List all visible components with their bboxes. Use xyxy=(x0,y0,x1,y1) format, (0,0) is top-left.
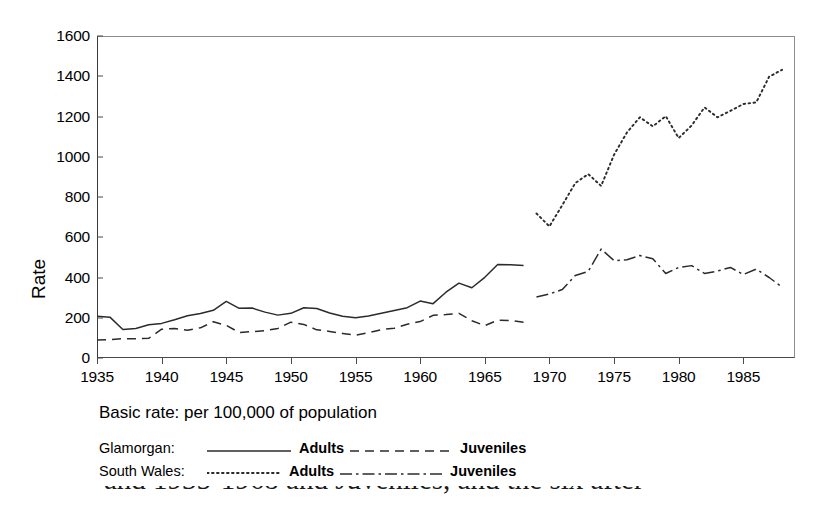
y-axis-tick-mark xyxy=(97,277,103,278)
legend-row: Glamorgan:AdultsJuveniles xyxy=(99,436,659,459)
cropped-caption-text: and 1935-1968 and Juveniles, and the six… xyxy=(104,486,644,496)
y-axis-tick-mark xyxy=(97,36,103,37)
x-axis-tick-mark xyxy=(679,358,680,364)
x-axis-tick-mark xyxy=(485,358,486,364)
legend-swatch-juveniles xyxy=(340,465,444,477)
y-axis-tick-label: 1600 xyxy=(56,27,90,45)
legend: Basic rate: per 100,000 of population Gl… xyxy=(99,403,659,482)
y-axis-tick-mark xyxy=(97,237,103,238)
legend-series-group-name: South Wales: xyxy=(99,463,207,479)
legend-series-group-name: Glamorgan: xyxy=(99,440,207,456)
legend-swatch-adults xyxy=(207,465,281,477)
y-axis-tick-label: 200 xyxy=(65,309,90,327)
plot-area xyxy=(97,36,795,358)
series-line xyxy=(536,249,782,297)
y-axis-tick-label: 1200 xyxy=(56,108,90,126)
legend-swatch-adults xyxy=(207,442,291,454)
y-axis-tick-mark xyxy=(97,156,103,157)
legend-row: South Wales:AdultsJuveniles xyxy=(99,459,659,482)
x-axis-tick-labels: 1935194019451950195519601965197019751980… xyxy=(97,358,795,388)
x-axis-tick-mark xyxy=(549,358,550,364)
y-axis-tick-label: 0 xyxy=(82,349,90,367)
y-axis-tick-mark xyxy=(97,317,103,318)
x-axis-tick-label: 1940 xyxy=(145,368,179,386)
x-axis-tick-label: 1960 xyxy=(403,368,437,386)
chart-lines xyxy=(97,36,795,358)
legend-line-dashed xyxy=(350,442,454,454)
legend-line-dashdot xyxy=(340,465,444,477)
series-line xyxy=(97,264,524,329)
y-axis-tick-mark xyxy=(97,76,103,77)
legend-label-adults: Adults xyxy=(281,463,340,479)
legend-line-solid xyxy=(207,442,291,454)
x-axis-tick-label: 1955 xyxy=(339,368,373,386)
series-line xyxy=(97,313,524,340)
series-line xyxy=(536,70,782,227)
y-axis-tick-label: 1000 xyxy=(56,148,90,166)
x-axis-tick-label: 1965 xyxy=(468,368,502,386)
legend-label-juveniles: Juveniles xyxy=(454,440,532,456)
legend-caption: Basic rate: per 100,000 of population xyxy=(99,403,659,423)
legend-swatch-juveniles xyxy=(350,442,454,454)
x-axis-tick-label: 1950 xyxy=(274,368,308,386)
x-axis-tick-label: 1935 xyxy=(80,368,114,386)
legend-label-adults: Adults xyxy=(291,440,350,456)
y-axis-title: Rate xyxy=(28,234,50,324)
x-axis-tick-mark xyxy=(356,358,357,364)
x-axis-tick-mark xyxy=(614,358,615,364)
x-axis-tick-label: 1975 xyxy=(597,368,631,386)
x-axis-tick-label: 1980 xyxy=(662,368,696,386)
x-axis-tick-mark xyxy=(420,358,421,364)
legend-line-dotted xyxy=(207,465,281,477)
x-axis-tick-mark xyxy=(226,358,227,364)
x-axis-tick-label: 1970 xyxy=(533,368,567,386)
x-axis-tick-mark xyxy=(162,358,163,364)
y-axis-tick-mark xyxy=(97,358,103,359)
legend-label-juveniles: Juveniles xyxy=(444,463,522,479)
y-axis-tick-mark xyxy=(97,116,103,117)
x-axis-tick-mark xyxy=(743,358,744,364)
y-axis-tick-label: 1400 xyxy=(56,67,90,85)
y-axis-tick-label: 400 xyxy=(65,269,90,287)
x-axis-tick-mark xyxy=(291,358,292,364)
y-axis-tick-label: 800 xyxy=(65,188,90,206)
legend-rows: Glamorgan:AdultsJuvenilesSouth Wales:Adu… xyxy=(99,436,659,482)
x-axis-tick-label: 1945 xyxy=(209,368,243,386)
y-axis-tick-mark xyxy=(97,197,103,198)
cropped-page-caption: and 1935-1968 and Juveniles, and the six… xyxy=(104,486,704,511)
figure-container: 02004006008001000120014001600 Rate 19351… xyxy=(0,0,821,511)
x-axis-tick-mark xyxy=(97,358,98,364)
x-axis-tick-label: 1985 xyxy=(726,368,760,386)
y-axis-tick-label: 600 xyxy=(65,228,90,246)
